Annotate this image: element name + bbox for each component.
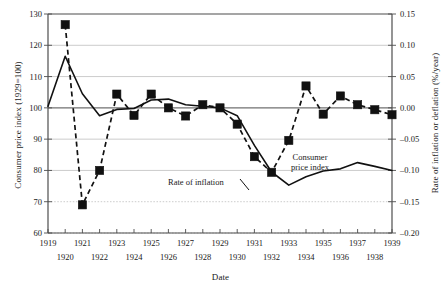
annotation-consumer-price-index: Consumer price index: [291, 152, 329, 172]
x-tick-1925: 1925: [136, 238, 166, 248]
y-right-tick-0.10: 0.10: [400, 40, 434, 50]
y-right-tick-neg0.15: –0.15: [400, 197, 434, 207]
y-left-tick-130: 130: [14, 9, 42, 19]
x-tick-1934: 1934: [291, 252, 321, 262]
annotation-cpi-line2: price index: [291, 162, 329, 172]
x-tick-1922: 1922: [85, 252, 115, 262]
x-tick-1920: 1920: [50, 252, 80, 262]
y-right-tick-0.15: 0.15: [400, 9, 434, 19]
x-tick-1933: 1933: [274, 238, 304, 248]
y-right-tick-neg0.05: –0.05: [400, 134, 434, 144]
x-tick-1928: 1928: [188, 252, 218, 262]
x-axis-title: Date: [0, 272, 441, 282]
annotation-rate-of-inflation: Rate of inflation: [168, 177, 224, 187]
x-tick-1937: 1937: [343, 238, 373, 248]
x-tick-1939: 1939: [377, 238, 407, 248]
x-tick-1919: 1919: [33, 238, 63, 248]
plot-frame: [48, 14, 392, 233]
inflation-cpi-chart-figure: Consumer price index (1929=100) Rate of …: [0, 0, 441, 292]
y-axis-right-title: Rate of inflation or deflation (%/year): [430, 38, 440, 208]
x-tick-1921: 1921: [67, 238, 97, 248]
annotation-cpi-line1: Consumer: [291, 152, 329, 162]
y-right-tick-0.05: 0.05: [400, 72, 434, 82]
y-left-tick-90: 90: [14, 134, 42, 144]
series-consumer-price-index: [48, 56, 392, 185]
annotation-leader-lines: [240, 179, 249, 190]
x-tick-1938: 1938: [360, 252, 390, 262]
x-tick-1927: 1927: [171, 238, 201, 248]
y-left-tick-120: 120: [14, 40, 42, 50]
y-right-tick-0.00: 0.00: [400, 103, 434, 113]
x-tick-1926: 1926: [153, 252, 183, 262]
series-rate-of-inflation: [61, 21, 396, 209]
chart-canvas: [0, 0, 441, 292]
y-left-tick-70: 70: [14, 197, 42, 207]
y-right-tick-neg0.20: –0.20: [400, 228, 434, 238]
x-tick-1936: 1936: [325, 252, 355, 262]
y-right-tick-neg0.10: –0.10: [400, 165, 434, 175]
x-tick-1930: 1930: [222, 252, 252, 262]
x-tick-1931: 1931: [239, 238, 269, 248]
x-tick-1924: 1924: [119, 252, 149, 262]
y-axis-left-title: Consumer price index (1929=100): [13, 45, 23, 205]
x-tick-1929: 1929: [205, 238, 235, 248]
x-tick-1935: 1935: [308, 238, 338, 248]
x-tick-1923: 1923: [102, 238, 132, 248]
x-tick-1932: 1932: [257, 252, 287, 262]
x-tick-marks: [48, 229, 392, 233]
y-left-tick-100: 100: [14, 103, 42, 113]
gridlines-group: [48, 45, 392, 233]
y-left-tick-80: 80: [14, 165, 42, 175]
y-left-tick-110: 110: [14, 72, 42, 82]
y-left-tick-60: 60: [14, 228, 42, 238]
